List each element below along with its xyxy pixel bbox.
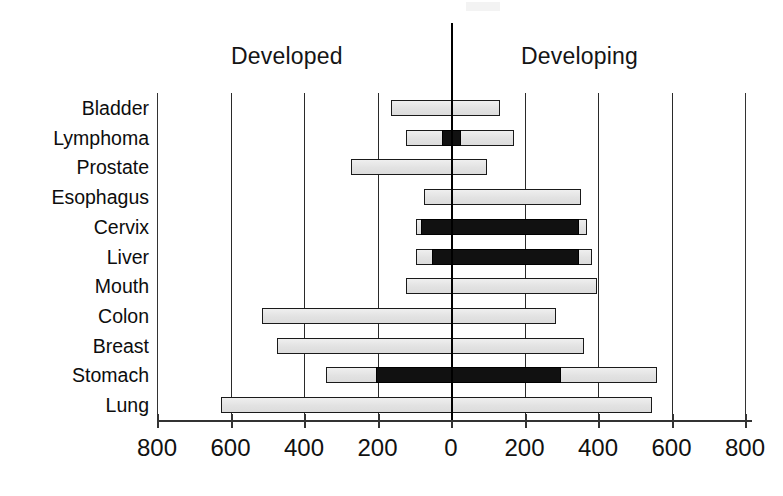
category-axis-labels: BladderLymphomaProstateEsophagusCervixLi… bbox=[0, 93, 149, 420]
bar-row-cervix bbox=[157, 219, 751, 235]
plot-area bbox=[157, 93, 751, 420]
category-label-prostate: Prostate bbox=[76, 157, 149, 177]
bar-colon-total bbox=[262, 308, 556, 324]
x-tick-label-7: 600 bbox=[651, 434, 691, 462]
x-tick-label-1: 600 bbox=[210, 434, 250, 462]
x-tick-label-8: 800 bbox=[725, 434, 765, 462]
bar-liver-dark-segment bbox=[432, 249, 579, 265]
category-label-cervix: Cervix bbox=[94, 217, 149, 237]
bar-row-lung bbox=[157, 397, 751, 413]
x-tick-right-400 bbox=[598, 414, 600, 428]
x-tick-right-800 bbox=[745, 414, 747, 428]
bar-breast-total bbox=[277, 338, 583, 354]
x-tick-right-600 bbox=[672, 414, 674, 428]
bar-prostate-total bbox=[351, 159, 487, 175]
x-tick-label-6: 400 bbox=[578, 434, 618, 462]
bar-row-mouth bbox=[157, 278, 751, 294]
bar-row-stomach bbox=[157, 367, 751, 383]
bar-row-colon bbox=[157, 308, 751, 324]
bar-esophagus-total bbox=[424, 189, 581, 205]
bar-lung-total bbox=[221, 397, 651, 413]
x-axis-line bbox=[157, 420, 752, 422]
bar-row-prostate bbox=[157, 159, 751, 175]
x-tick-label-5: 200 bbox=[504, 434, 544, 462]
x-tick-left-600 bbox=[231, 414, 233, 428]
group-label-developed: Developed bbox=[231, 43, 343, 70]
bar-row-liver bbox=[157, 249, 751, 265]
category-label-mouth: Mouth bbox=[95, 276, 149, 296]
bar-row-esophagus bbox=[157, 189, 751, 205]
bar-cervix-dark-segment bbox=[421, 219, 579, 235]
bar-stomach-dark-segment bbox=[376, 367, 561, 383]
bar-row-breast bbox=[157, 338, 751, 354]
bar-row-lymphoma bbox=[157, 130, 751, 146]
x-tick-label-4: 0 bbox=[444, 434, 457, 462]
x-tick-left-400 bbox=[304, 414, 306, 428]
x-tick-label-0: 800 bbox=[137, 434, 177, 462]
x-tick-label-2: 400 bbox=[284, 434, 324, 462]
category-label-lung: Lung bbox=[106, 395, 149, 415]
bar-mouth-total bbox=[406, 278, 597, 294]
category-label-colon: Colon bbox=[98, 306, 149, 326]
group-label-developing: Developing bbox=[521, 43, 638, 70]
x-tick-right-200 bbox=[525, 414, 527, 428]
bar-bladder-total bbox=[391, 100, 500, 116]
chart-screenshot: Developed Developing BladderLymphomaPros… bbox=[0, 0, 783, 496]
x-tick-label-3: 200 bbox=[357, 434, 397, 462]
category-label-esophagus: Esophagus bbox=[51, 187, 149, 207]
category-label-breast: Breast bbox=[93, 336, 149, 356]
category-label-liver: Liver bbox=[107, 247, 149, 267]
category-label-bladder: Bladder bbox=[82, 98, 149, 118]
bar-row-bladder bbox=[157, 100, 751, 116]
x-tick-left-800 bbox=[157, 414, 159, 428]
category-label-lymphoma: Lymphoma bbox=[53, 128, 149, 148]
zero-axis-line bbox=[451, 23, 453, 420]
scan-artifact bbox=[466, 2, 500, 11]
x-tick-left-200 bbox=[378, 414, 380, 428]
category-label-stomach: Stomach bbox=[72, 365, 149, 385]
